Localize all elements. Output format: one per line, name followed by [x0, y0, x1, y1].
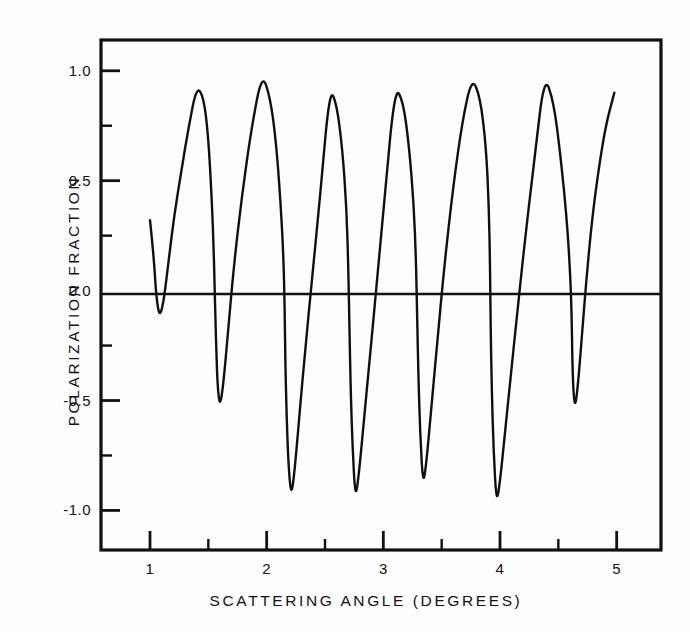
x-tick-label: 1	[130, 560, 170, 577]
data-curve-group	[150, 81, 614, 496]
x-tick-label: 2	[247, 560, 287, 577]
figure-container: SCATTERING ANGLE (DEGREES) POLARIZATION …	[0, 0, 690, 632]
y-tick-label: -1.0	[29, 501, 91, 518]
x-tick-label: 4	[480, 560, 520, 577]
polarization-plot	[0, 0, 690, 632]
x-tick-label: 3	[363, 560, 403, 577]
x-axis-title: SCATTERING ANGLE (DEGREES)	[0, 592, 690, 610]
y-tick-label: 1.0	[29, 62, 91, 79]
y-axis-title: POLARIZATION FRACTION	[65, 91, 83, 511]
x-tick-label: 5	[597, 560, 637, 577]
polarization-curve	[150, 81, 614, 496]
x-axis-ticks	[150, 531, 617, 550]
y-axis-ticks	[101, 71, 120, 511]
y-tick-label: 0.0	[29, 282, 91, 299]
y-tick-label: 0.5	[29, 172, 91, 189]
y-tick-label: -0.5	[29, 392, 91, 409]
